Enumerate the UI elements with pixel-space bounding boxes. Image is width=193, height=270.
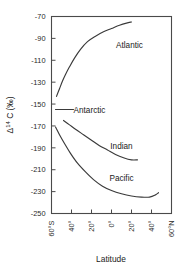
svg-text:0°: 0° [107,220,116,227]
y-tick-label: -90 [35,34,46,43]
series-label-pacific: Pacific [109,174,133,183]
y-axis-title-unit: C (‰) [5,96,15,119]
series-label-atlantic: Atlantic [116,41,143,50]
y-tick-label: -190 [31,144,46,153]
x-tick-label: 40° [67,220,76,231]
x-tick-label: 20° [87,220,96,231]
curve-pacific [56,127,159,197]
y-tick-label: -170 [31,122,46,131]
x-tick-label: 20° [127,220,136,231]
svg-text:40°: 40° [67,220,76,231]
plot-frame [52,17,172,214]
svg-text:60°N: 60°N [167,221,176,238]
series-annotations: AtlanticAntarcticIndianPacific [74,41,143,184]
data-series-curves [56,22,159,197]
svg-text:20°: 20° [87,220,96,231]
series-label-antarctic: Antarctic [74,106,106,115]
x-axis-ticks [52,210,172,214]
svg-text:Δ14 C (‰): Δ14 C (‰) [5,96,15,133]
y-tick-label: -130 [31,78,46,87]
x-tick-label: 0° [107,220,116,227]
x-tick-label: 60°S [47,220,56,236]
delta-14c-latitude-chart: -70-90-110-130-150-170-190-210-230-250 6… [0,0,193,270]
y-tick-label: -230 [31,187,46,196]
x-axis-title: Latitude [96,254,126,264]
y-tick-label: -150 [31,100,46,109]
series-label-indian: Indian [110,142,133,151]
chart-figure: -70-90-110-130-150-170-190-210-230-250 6… [0,0,193,270]
svg-text:40°: 40° [147,220,156,231]
y-axis-tick-labels: -70-90-110-130-150-170-190-210-230-250 [31,12,46,218]
y-axis-title: Δ14 C (‰) [5,96,15,133]
svg-text:60°S: 60°S [47,220,56,236]
y-tick-label: -70 [35,12,46,21]
x-tick-label: 40° [147,220,156,231]
curve-indian [64,120,138,160]
x-tick-label: 60°N [167,221,176,238]
y-tick-label: -250 [31,209,46,218]
curve-atlantic [57,22,132,96]
svg-text:20°: 20° [127,220,136,231]
x-axis-tick-labels: 60°S40°20°0°20°40°60°N [47,220,176,237]
y-tick-label: -210 [31,165,46,174]
y-axis-ticks [52,17,56,214]
y-tick-label: -110 [31,56,45,65]
